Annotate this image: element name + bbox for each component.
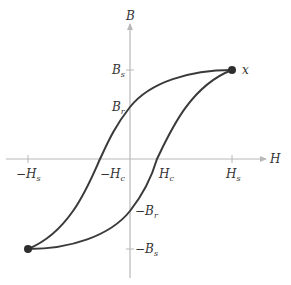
label-Hc: Hc: [158, 167, 174, 183]
label-neg-Hc: −Hc: [100, 167, 126, 183]
label-neg-Br: −Br: [135, 204, 159, 220]
label-Br: Br: [111, 100, 126, 116]
label-Hs: Hs: [225, 167, 241, 183]
h-axis-label: H: [269, 152, 281, 166]
point-label-x: x: [242, 63, 249, 77]
saturation-point-negative: [24, 245, 32, 253]
b-axis-label: B: [125, 9, 135, 23]
hysteresis-diagram: H B x −Hs −Hc Hc Hs Bs Br −Br −Bs: [0, 0, 291, 285]
saturation-point-positive: [228, 66, 236, 74]
label-neg-Hs: −Hs: [16, 167, 41, 183]
label-Bs: Bs: [111, 63, 125, 79]
label-neg-Bs: −Bs: [135, 242, 158, 258]
